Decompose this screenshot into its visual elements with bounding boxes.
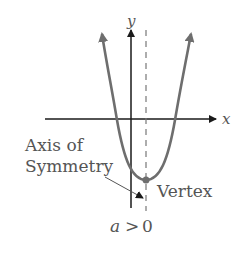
axis-of-symmetry-label-line2: Symmetry — [25, 156, 114, 176]
condition-value: 0 — [142, 216, 153, 236]
axis-of-symmetry-label-line1: Axis of — [24, 135, 85, 155]
parabola-right-arm — [146, 34, 191, 180]
y-axis-label: y — [126, 12, 136, 30]
condition-variable: a — [110, 216, 120, 236]
vertex-point — [143, 177, 150, 184]
x-axis-label: x — [222, 110, 231, 128]
parabola-diagram: y x Axis of Symmetry Vertex a > 0 — [0, 0, 240, 263]
axis-of-symmetry-pointer — [105, 177, 143, 198]
condition-operator: > — [125, 216, 139, 236]
vertex-label: Vertex — [156, 181, 213, 201]
condition-label: a > 0 — [110, 216, 153, 236]
